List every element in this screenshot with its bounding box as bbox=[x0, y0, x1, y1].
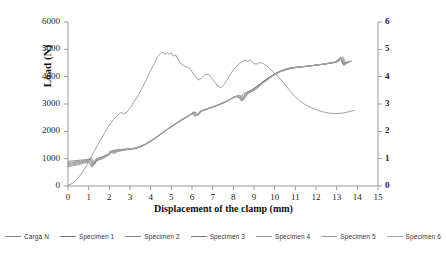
legend-swatch-icon bbox=[125, 236, 141, 237]
legend-label: Specimen 5 bbox=[340, 233, 375, 240]
legend-label: Carga N bbox=[24, 233, 49, 240]
legend-item-7[interactable]: Specimen 6 bbox=[387, 233, 441, 240]
series-line-1 bbox=[68, 52, 354, 185]
legend-swatch-icon bbox=[191, 236, 207, 237]
legend-item-4[interactable]: Specimen 3 bbox=[191, 233, 245, 240]
legend-label: Specimen 3 bbox=[210, 233, 245, 240]
legend-label: Specimen 4 bbox=[275, 233, 310, 240]
legend-item-6[interactable]: Specimen 5 bbox=[321, 233, 375, 240]
legend-item-5[interactable]: Specimen 4 bbox=[256, 233, 310, 240]
series-line-4 bbox=[68, 58, 348, 164]
series-line-2 bbox=[68, 57, 351, 165]
legend-item-3[interactable]: Specimen 2 bbox=[125, 233, 179, 240]
legend-label: Specimen 6 bbox=[406, 233, 441, 240]
chart-figure: Load (N) Transversal Displacement (mm) i… bbox=[0, 0, 446, 253]
legend-item-1[interactable]: Carga N bbox=[5, 233, 49, 240]
legend-swatch-icon bbox=[5, 236, 21, 237]
plot-area bbox=[0, 0, 446, 253]
legend-swatch-icon bbox=[321, 236, 337, 237]
legend-item-2[interactable]: Specimen 1 bbox=[60, 233, 114, 240]
legend-label: Specimen 1 bbox=[79, 233, 114, 240]
series-line-6 bbox=[68, 57, 351, 166]
legend-swatch-icon bbox=[387, 236, 403, 237]
chart-legend: Carga NSpecimen 1Specimen 2Specimen 3Spe… bbox=[0, 228, 446, 244]
series-line-7 bbox=[68, 57, 352, 166]
legend-label: Specimen 2 bbox=[144, 233, 179, 240]
legend-swatch-icon bbox=[60, 236, 76, 237]
legend-swatch-icon bbox=[256, 236, 272, 237]
